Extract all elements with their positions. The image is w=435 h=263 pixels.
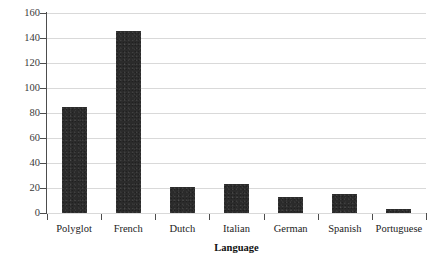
x-axis-tick-mark	[47, 214, 48, 220]
y-axis-tick-label: 20	[0, 183, 44, 193]
bar	[224, 184, 249, 213]
gridline	[47, 163, 426, 164]
x-axis-title: Language	[47, 241, 426, 254]
y-axis-tick-label: 120	[0, 58, 44, 68]
x-axis-tick-mark	[155, 214, 156, 220]
y-axis-tick-mark	[40, 88, 46, 89]
x-axis-tick-label: German	[264, 222, 318, 235]
gridline	[47, 213, 426, 214]
y-axis-tick-mark	[40, 13, 46, 14]
x-axis-tick-mark	[264, 214, 265, 220]
y-axis-tick-mark	[40, 213, 46, 214]
x-axis-tick-label: Polyglot	[47, 222, 101, 235]
y-axis-tick-label: 60	[0, 133, 44, 143]
y-axis-tick-label: 100	[0, 83, 44, 93]
gridline	[47, 138, 426, 139]
x-axis-tick-label: Dutch	[155, 222, 209, 235]
gridline	[47, 13, 426, 14]
y-axis-tick-mark	[40, 38, 46, 39]
x-axis-tick-mark	[372, 214, 373, 220]
y-axis-tick-label: 140	[0, 33, 44, 43]
y-axis-tick-label: 80	[0, 108, 44, 118]
bar	[116, 31, 141, 214]
bar	[170, 187, 195, 213]
y-axis-tick-mark	[40, 163, 46, 164]
bar-chart: Number of editions 020406080100120140160…	[0, 0, 435, 263]
gridline	[47, 113, 426, 114]
bar	[332, 194, 357, 213]
bar	[386, 209, 411, 213]
x-axis-tick-label: Italian	[209, 222, 263, 235]
y-axis-tick-mark	[40, 188, 46, 189]
y-axis-tick-label: 40	[0, 158, 44, 168]
bar	[278, 197, 303, 213]
y-axis-tick-mark	[40, 113, 46, 114]
x-axis-tick-mark	[209, 214, 210, 220]
plot-area	[47, 13, 426, 213]
x-axis-tick-mark	[318, 214, 319, 220]
gridline	[47, 38, 426, 39]
y-axis-tick-label: 0	[0, 208, 44, 218]
x-axis-tick-mark	[101, 214, 102, 220]
gridline	[47, 63, 426, 64]
x-axis-tick-mark	[426, 214, 427, 220]
x-axis-tick-label: French	[101, 222, 155, 235]
gridline	[47, 88, 426, 89]
x-axis-tick-label: Portuguese	[372, 222, 426, 235]
y-axis-tick-mark	[40, 138, 46, 139]
y-axis-tick-mark	[40, 63, 46, 64]
bar	[62, 107, 87, 213]
x-axis-tick-label: Spanish	[318, 222, 372, 235]
y-axis-tick-labels: 020406080100120140160	[0, 0, 44, 263]
y-axis-tick-label: 160	[0, 8, 44, 18]
